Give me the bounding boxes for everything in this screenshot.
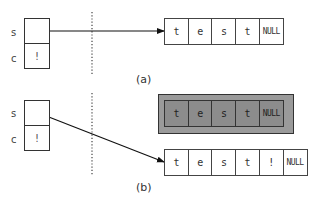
- array-cell-null: NULL: [259, 18, 284, 45]
- var-cell-c-b: !: [25, 126, 49, 150]
- var-cell-s-b: [25, 101, 49, 126]
- var-label-s-b: s: [11, 109, 16, 119]
- array-cell: t: [235, 100, 260, 127]
- caption-a: (a): [136, 74, 151, 85]
- array-cell: s: [211, 18, 236, 45]
- array-cell: t: [235, 18, 260, 45]
- var-label-s-a: s: [11, 28, 16, 38]
- var-label-c-b: c: [11, 135, 17, 145]
- array-cell: t: [164, 18, 189, 45]
- new-string-array-b: t e s t ! NULL: [164, 149, 308, 176]
- array-cell: e: [188, 100, 213, 127]
- array-cell-null: NULL: [259, 100, 284, 127]
- string-array-a: t e s t NULL: [164, 18, 284, 45]
- array-cell: e: [188, 149, 213, 176]
- var-cell-s-a: [25, 19, 49, 44]
- array-cell-null: NULL: [283, 149, 308, 176]
- array-cell: s: [211, 149, 236, 176]
- variable-box-b: !: [24, 100, 50, 151]
- variable-box-a: !: [24, 18, 50, 69]
- array-cell: t: [164, 149, 189, 176]
- old-string-array-b: t e s t NULL: [164, 100, 284, 127]
- pointer-arrow-b: [36, 112, 164, 162]
- var-label-c-a: c: [11, 54, 17, 64]
- array-cell: s: [211, 100, 236, 127]
- array-cell: t: [164, 100, 189, 127]
- array-cell: t: [235, 149, 260, 176]
- caption-b: (b): [136, 182, 152, 193]
- array-cell: !: [259, 149, 284, 176]
- var-cell-c-a: !: [25, 44, 49, 68]
- array-cell: e: [188, 18, 213, 45]
